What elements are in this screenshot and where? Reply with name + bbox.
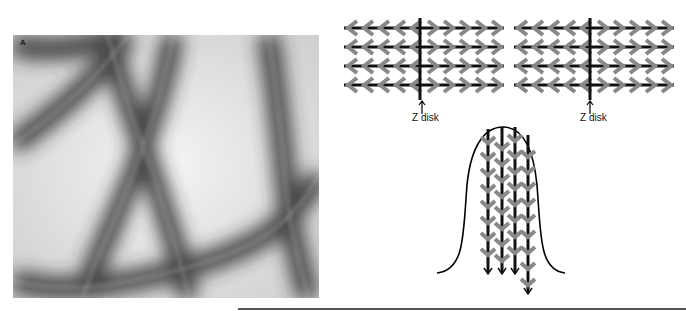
micrograph-image [13, 35, 319, 298]
arrow-up-icon [586, 100, 594, 114]
electron-micrograph [13, 35, 319, 298]
divider-line [238, 308, 686, 310]
panel-label-a: A [20, 38, 26, 47]
arrow-up-icon [418, 100, 426, 114]
sarcomere-diagram-left [340, 18, 510, 103]
microvillus-diagram [425, 125, 575, 310]
sarcomere-diagram-right [510, 18, 680, 103]
